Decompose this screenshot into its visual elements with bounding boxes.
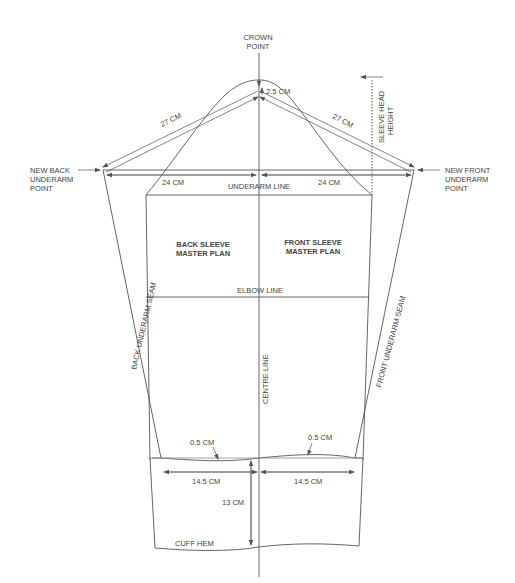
svg-text:27 CM: 27 CM	[331, 112, 355, 130]
crown-point-label: POINT	[247, 42, 270, 51]
back-diagonal-27cm: 27 CM	[103, 91, 258, 172]
svg-text:UNDERARM: UNDERARM	[445, 175, 488, 184]
sleeve-head-height: SLEEVE HEAD HEIGHT	[361, 77, 395, 195]
front-underarm-seam	[355, 170, 414, 458]
svg-text:SLEEVE HEAD: SLEEVE HEAD	[377, 90, 386, 143]
svg-text:14.5 CM: 14.5 CM	[192, 477, 220, 486]
crown-point-marker: CROWN POINT	[243, 33, 272, 86]
back-underarm-seam	[103, 170, 161, 458]
svg-text:NEW BACK: NEW BACK	[30, 166, 70, 175]
new-back-underarm-point: NEW BACK UNDERARM POINT	[30, 166, 100, 193]
sleeve-draft-diagram: CROWN POINT 2.5 CM 27 CM 27 CM SLEEVE HE…	[0, 0, 515, 583]
crown-point-label: CROWN	[243, 33, 272, 42]
svg-text:14.5 CM: 14.5 CM	[294, 477, 322, 486]
front-curve-label: 0.5 CM	[308, 433, 332, 442]
back-seam-label: BACK UNDERARM SEAM	[129, 282, 158, 371]
back-wrist-14-5cm: 14.5 CM	[164, 472, 257, 486]
cuff-depth-label: 13 CM	[222, 498, 244, 507]
front-wrist-14-5cm: 14.5 CM	[261, 472, 354, 486]
front-curve-arrow	[308, 443, 312, 455]
sleeve-master-plan	[146, 80, 372, 577]
svg-text:HEIGHT: HEIGHT	[386, 106, 395, 135]
back-curve-arrow	[213, 447, 218, 459]
back-plan-label: BACK SLEEVE	[176, 240, 229, 249]
svg-text:UNDERARM: UNDERARM	[30, 175, 73, 184]
svg-text:24 CM: 24 CM	[318, 178, 340, 187]
front-plan-label: MASTER PLAN	[286, 247, 340, 256]
back-plan-label: MASTER PLAN	[176, 249, 230, 258]
svg-text:27 CM: 27 CM	[159, 111, 183, 129]
centre-line-label: CENTRE LINE	[261, 354, 270, 404]
front-plan-label: FRONT SLEEVE	[284, 238, 342, 247]
elbow-line-label: ELBOW LINE	[237, 286, 283, 295]
svg-text:NEW FRONT: NEW FRONT	[445, 166, 491, 175]
svg-text:24 CM: 24 CM	[162, 178, 184, 187]
new-front-underarm-point: NEW FRONT UNDERARM POINT	[418, 166, 491, 193]
svg-text:POINT: POINT	[30, 184, 53, 193]
svg-text:POINT: POINT	[445, 184, 468, 193]
cuff-hem-label: CUFF HEM	[175, 539, 214, 548]
back-curve-label: 0.5 CM	[190, 438, 214, 447]
